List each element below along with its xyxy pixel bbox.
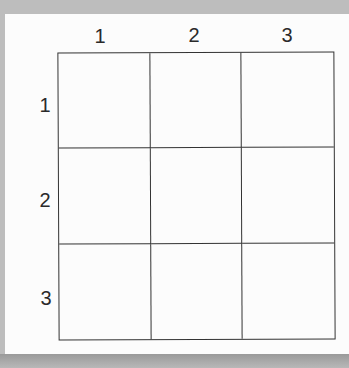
column-label-2: 2 [179,24,209,46]
grid-cell-r3-c2[interactable] [151,243,243,339]
grid-cell-r1-c2[interactable] [150,53,242,149]
row-label-3: 3 [31,287,61,309]
grid-cell-r2-c3[interactable] [242,148,334,244]
column-label-1: 1 [85,25,115,47]
grid-cell-r1-c1[interactable] [58,53,150,149]
column-label-3: 3 [272,24,302,46]
row-label-2: 2 [30,189,60,211]
bottom-edge-shadow [0,354,349,368]
grid-cell-r2-c2[interactable] [150,148,242,244]
grid-cell-r3-c1[interactable] [59,244,151,340]
row-label-1: 1 [30,94,60,116]
grid-3x3 [57,51,335,340]
grid-cell-r3-c3[interactable] [243,243,335,339]
grid-cell-r1-c3[interactable] [242,52,334,148]
grid-cell-r2-c1[interactable] [59,149,151,245]
